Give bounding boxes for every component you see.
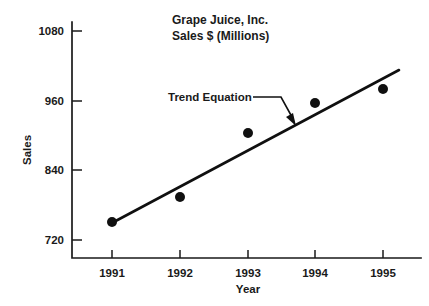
data-point-1993 bbox=[243, 128, 253, 138]
data-point-1992 bbox=[175, 192, 185, 202]
data-point-1994 bbox=[310, 98, 320, 108]
annotation-label-trend-equation: Trend Equation bbox=[168, 91, 252, 103]
x-tick-label-1994: 1994 bbox=[302, 267, 328, 279]
chart-container: 1080 960 840 720 Sales 1991 1992 1993 19… bbox=[0, 0, 429, 306]
chart-axes bbox=[72, 22, 421, 258]
x-tick-label-1991: 1991 bbox=[99, 267, 125, 279]
y-tick-label-720: 720 bbox=[45, 234, 64, 246]
y-tick-label-840: 840 bbox=[45, 164, 64, 176]
y-axis-title: Sales bbox=[21, 135, 33, 165]
x-axis-title: Year bbox=[236, 283, 261, 295]
x-tick-label-1995: 1995 bbox=[370, 267, 396, 279]
data-point-1995 bbox=[378, 84, 388, 94]
x-axis-ticks bbox=[112, 250, 383, 258]
chart-title-line-1: Grape Juice, Inc. bbox=[172, 13, 268, 27]
annotation-arrow-icon bbox=[286, 113, 296, 126]
chart-title-line-2: Sales $ (Millions) bbox=[172, 29, 269, 43]
trend-line bbox=[110, 70, 399, 224]
y-tick-label-1080: 1080 bbox=[38, 25, 64, 37]
sales-trend-chart: 1080 960 840 720 Sales 1991 1992 1993 19… bbox=[0, 0, 429, 306]
y-tick-label-960: 960 bbox=[45, 95, 64, 107]
y-axis-ticks bbox=[72, 31, 82, 240]
annotation-leader-line bbox=[253, 97, 292, 117]
data-points bbox=[107, 84, 388, 227]
data-point-1991 bbox=[107, 217, 117, 227]
x-tick-label-1993: 1993 bbox=[235, 267, 261, 279]
x-tick-label-1992: 1992 bbox=[167, 267, 193, 279]
